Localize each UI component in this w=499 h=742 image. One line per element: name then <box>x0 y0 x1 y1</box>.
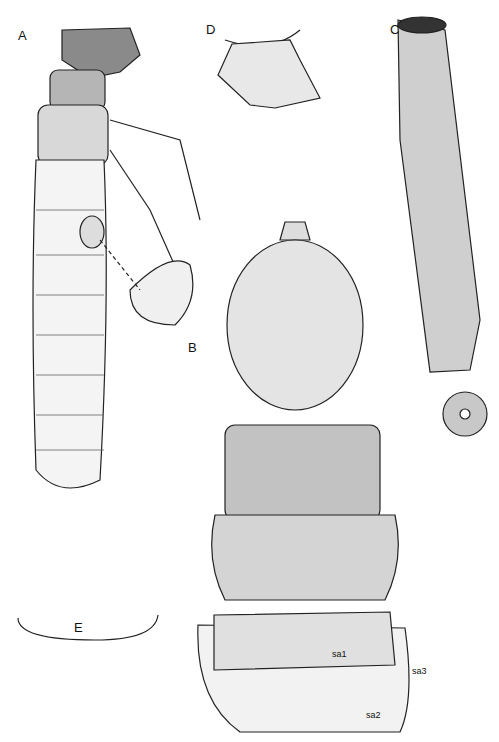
panel-d <box>218 30 320 108</box>
panel-label-e: E <box>74 620 83 635</box>
panel-c-case <box>398 17 487 436</box>
panel-label-b: B <box>188 340 197 355</box>
panel-b <box>198 222 409 732</box>
panel-label-a: A <box>18 28 27 43</box>
annotation-sa3: sa3 <box>412 666 427 676</box>
annotation-sa1: sa1 <box>332 649 347 659</box>
panel-label-c: C <box>390 22 399 37</box>
panel-a-larva <box>33 28 200 488</box>
annotation-sa2: sa2 <box>366 710 381 720</box>
panel-e <box>18 615 158 640</box>
panel-label-d: D <box>206 22 215 37</box>
